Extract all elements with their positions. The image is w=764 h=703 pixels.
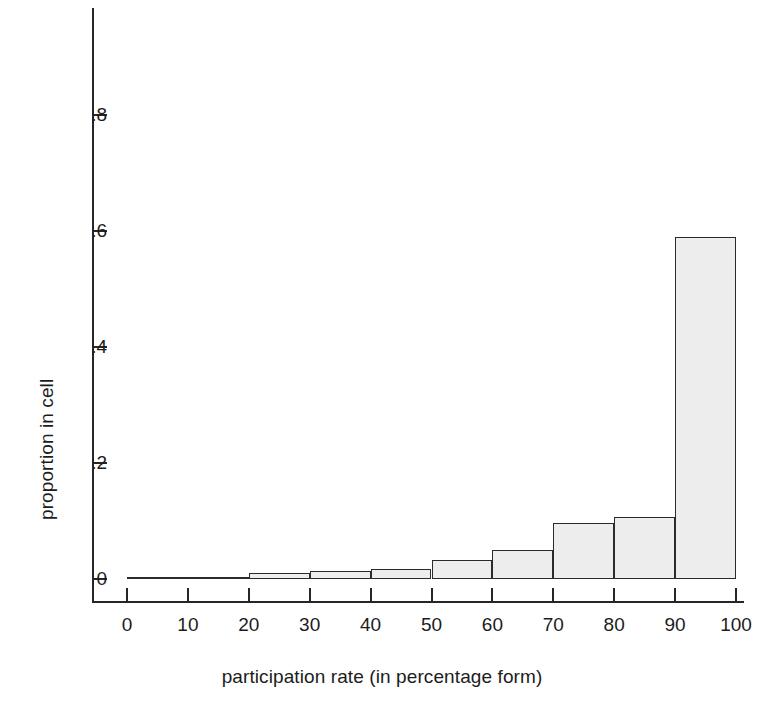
x-tick-mark [674,588,676,602]
x-tick-mark [370,588,372,602]
x-tick-label: 50 [402,614,462,637]
x-tick-mark [187,588,189,602]
x-tick-mark [126,588,128,602]
x-tick-label: 10 [158,614,218,637]
x-tick-label: 40 [341,614,401,637]
x-axis-label: participation rate (in percentage form) [0,666,764,688]
x-tick-mark [491,588,493,602]
y-axis-line [92,8,94,603]
x-tick-label: 90 [645,614,705,637]
x-tick-mark [248,588,250,602]
x-tick-label: 60 [462,614,522,637]
x-axis-line [92,601,744,603]
x-tick-label: 80 [584,614,644,637]
x-tick-label: 30 [280,614,340,637]
histogram-bar [614,517,675,579]
histogram-chart: 0.2.4.6.8 0102030405060708090100 proport… [0,0,764,703]
histogram-bar [675,237,736,579]
x-tick-mark [735,588,737,602]
x-tick-label: 100 [706,614,764,637]
x-tick-mark [552,588,554,602]
x-tick-mark [431,588,433,602]
x-tick-label: 70 [523,614,583,637]
histogram-bar [492,550,553,579]
x-tick-label: 20 [219,614,279,637]
x-tick-label: 0 [97,614,157,637]
y-tick-label: 0 [51,569,107,588]
histogram-bar [553,523,614,579]
histogram-bar [188,577,249,579]
histogram-bar [310,571,371,579]
x-tick-mark [309,588,311,602]
y-axis-label: proportion in cell [30,40,64,520]
histogram-bar [249,573,310,579]
histogram-bar [371,569,432,579]
plot-area: 0.2.4.6.8 0102030405060708090100 [0,0,764,703]
x-tick-mark [613,588,615,602]
histogram-bar [127,577,188,579]
histogram-bar [432,560,493,579]
